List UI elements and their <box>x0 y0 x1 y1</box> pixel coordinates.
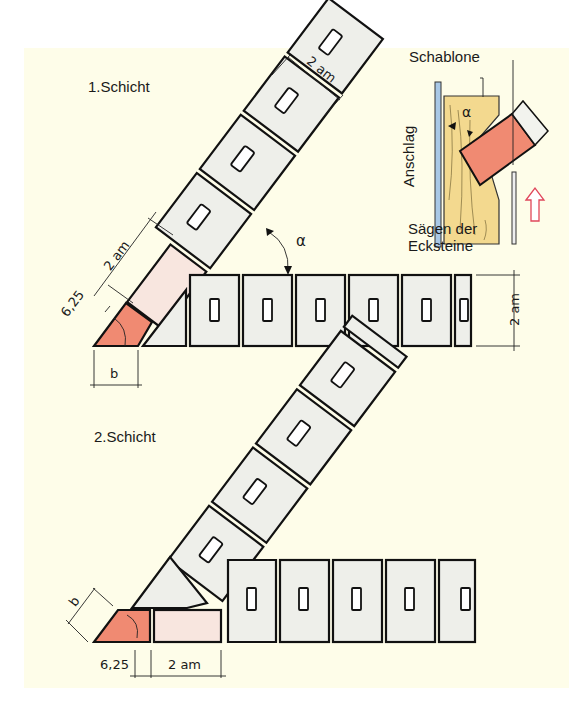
horizontal-brick <box>228 560 276 642</box>
stop-label: Anschlag <box>400 126 417 188</box>
feed-arrow-icon <box>526 188 544 221</box>
horizontal-brick-partial <box>455 275 471 346</box>
alpha-label: α <box>296 232 306 250</box>
pale-brick <box>154 610 221 642</box>
cut-corner-brick <box>94 610 150 642</box>
saw-blade <box>512 172 516 244</box>
masonry-corner-diagram <box>0 0 585 710</box>
layer2-title: 2.Schicht <box>94 428 156 445</box>
horizontal-brick <box>402 275 451 346</box>
layer2-dim-length-label: 2 am <box>168 657 201 672</box>
dim-b-label: b <box>110 366 118 381</box>
dim-height-label: 2 am <box>507 293 522 326</box>
layer2-drawing <box>66 316 475 678</box>
layer1-title: 1.Schicht <box>88 78 150 95</box>
dim-b-line <box>68 588 95 624</box>
caption-line2: Ecksteine <box>408 237 473 254</box>
sawing-inset <box>435 60 548 247</box>
horizontal-brick <box>280 560 329 642</box>
caption-line1: Sägen der <box>408 220 477 237</box>
horizontal-brick <box>243 275 292 346</box>
horizontal-brick <box>386 560 435 642</box>
layer2-dim-offset-label: 6,25 <box>100 657 129 672</box>
horizontal-brick <box>333 560 382 642</box>
inset-alpha-label: α <box>462 104 471 120</box>
horizontal-brick <box>190 275 239 346</box>
horizontal-brick-partial <box>439 560 475 642</box>
template-label: Schablone <box>409 48 480 65</box>
